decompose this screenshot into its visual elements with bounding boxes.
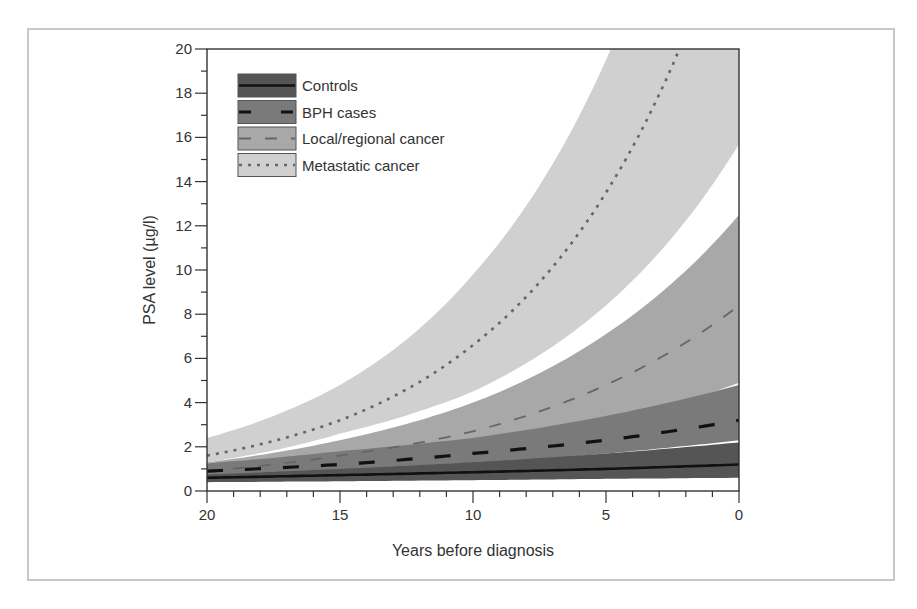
psa-chart: 0246810121416182020151050 ControlsBPH ca…	[0, 0, 917, 609]
y-tick-label: 18	[175, 84, 192, 101]
legend: ControlsBPH casesLocal/regional cancerMe…	[238, 74, 445, 177]
legend-item: Controls	[238, 74, 358, 97]
y-tick-label: 4	[184, 394, 192, 411]
legend-label: BPH cases	[302, 104, 376, 121]
y-tick-label: 14	[175, 173, 192, 190]
x-axis-title: Years before diagnosis	[392, 542, 554, 559]
y-tick-label: 12	[175, 217, 192, 234]
x-tick-label: 20	[199, 506, 216, 523]
x-tick-label: 10	[465, 506, 482, 523]
legend-label: Controls	[302, 77, 358, 94]
legend-item: BPH cases	[238, 101, 376, 124]
y-tick-label: 0	[184, 482, 192, 499]
y-axis-title: PSA level (µg/l)	[141, 215, 158, 325]
y-tick-label: 2	[184, 438, 192, 455]
x-tick-label: 15	[332, 506, 349, 523]
legend-item: Metastatic cancer	[238, 154, 420, 177]
legend-label: Local/regional cancer	[302, 130, 445, 147]
legend-label: Metastatic cancer	[302, 157, 420, 174]
confidence-bands	[207, 0, 739, 482]
x-tick-label: 0	[735, 506, 743, 523]
y-tick-label: 6	[184, 349, 192, 366]
x-tick-label: 5	[602, 506, 610, 523]
y-tick-label: 16	[175, 128, 192, 145]
y-tick-label: 8	[184, 305, 192, 322]
y-tick-label: 10	[175, 261, 192, 278]
y-tick-label: 20	[175, 40, 192, 57]
legend-item: Local/regional cancer	[238, 127, 445, 150]
